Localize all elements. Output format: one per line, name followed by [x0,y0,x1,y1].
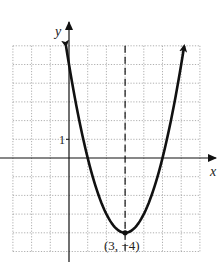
y-tick-label-1: 1 [59,133,65,147]
x-axis-label: x [209,164,217,179]
grid [13,46,200,252]
vertex-annotation: (3, −4) [104,238,140,253]
parabola-chart: x y 1 (3, −4) [0,0,222,266]
axes [0,22,216,262]
y-axis-label: y [53,24,62,39]
vertex-point [123,230,128,235]
